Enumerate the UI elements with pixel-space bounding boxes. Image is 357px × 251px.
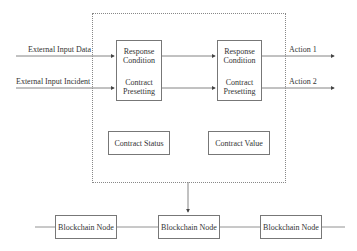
- right-presetting-label: Contract Presetting: [218, 78, 261, 96]
- input-incident-label: External Input Incident: [16, 77, 90, 86]
- left-contract-box: Response Condition Contract Presetting: [116, 40, 162, 101]
- action1-label: Action 1: [289, 45, 317, 54]
- left-response-label: Response Condition: [117, 47, 161, 65]
- left-presetting-label: Contract Presetting: [117, 78, 161, 96]
- blockchain-node-3: Blockchain Node: [260, 215, 322, 239]
- action2-label: Action 2: [289, 77, 317, 86]
- contract-value-box: Contract Value: [208, 131, 270, 155]
- blockchain-node-1: Blockchain Node: [55, 215, 117, 239]
- input-data-label: External Input Data: [28, 45, 91, 54]
- blockchain-node-2: Blockchain Node: [158, 215, 220, 239]
- contract-status-box: Contract Status: [108, 131, 170, 155]
- right-contract-box: Response Condition Contract Presetting: [217, 40, 262, 101]
- right-response-label: Response Condition: [218, 47, 261, 65]
